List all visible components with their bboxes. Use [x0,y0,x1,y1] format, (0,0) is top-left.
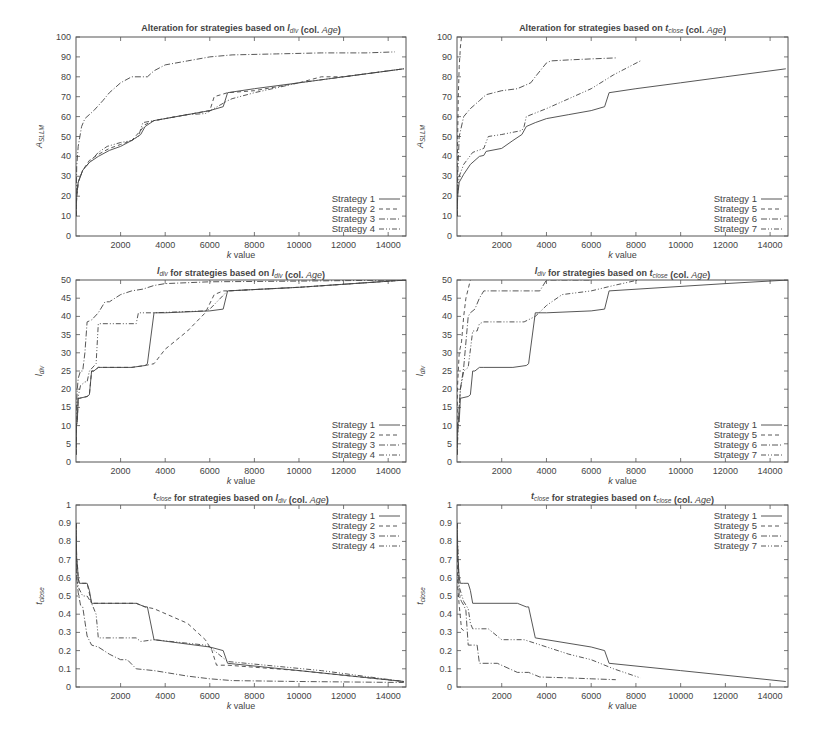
y-tick-label: 10 [61,421,71,431]
x-axis-label: k value [227,701,256,711]
chart-title: ldiv for strategies based on ldiv (col. … [157,266,325,280]
y-tick-label: 20 [442,384,452,394]
y-tick-label: 45 [442,293,452,303]
series-line-strategy-7 [457,523,640,678]
y-tick-label: 50 [61,132,71,142]
series-line-strategy-6 [457,280,591,455]
y-tick-label: 0 [66,457,71,467]
y-tick-label: 0 [66,682,71,692]
x-tick-label: 14000 [758,691,783,701]
x-tick-label: 4000 [155,240,175,250]
x-tick-label: 4000 [536,240,556,250]
y-tick-label: 0.8 [439,536,452,546]
x-tick-label: 6000 [200,466,220,476]
y-tick-label: 35 [442,330,452,340]
legend-label: Strategy 7 [714,540,757,551]
x-tick-label: 4000 [536,691,556,701]
y-tick-label: 100 [56,32,71,42]
y-tick-label: 0.3 [439,627,452,637]
y-tick-label: 0.9 [58,518,71,528]
y-tick-label: 5 [66,439,71,449]
y-tick-label: 20 [61,191,71,201]
figure-canvas: Alteration for strategies based on ldiv … [0,0,831,750]
figure: Alteration for strategies based on ldiv … [0,0,831,750]
y-tick-label: 0 [66,231,71,241]
x-tick-label: 2000 [492,466,512,476]
y-axis-label: ldiv [415,365,426,376]
y-axis-label: tclose [34,587,45,605]
y-tick-label: 1 [66,500,71,510]
x-tick-label: 6000 [200,691,220,701]
y-tick-label: 0.7 [58,555,71,565]
y-tick-label: 0.6 [58,573,71,583]
y-tick-label: 40 [442,311,452,321]
y-tick-label: 70 [442,92,452,102]
x-tick-label: 4000 [155,691,175,701]
y-tick-label: 35 [61,330,71,340]
x-tick-label: 8000 [244,240,264,250]
y-tick-label: 30 [61,348,71,358]
chart-title: tclose for strategies based on tclose (c… [531,491,714,505]
y-tick-label: 50 [61,275,71,285]
chart-title: ldiv for strategies based on tclose (col… [535,266,711,280]
series-line-strategy-6 [457,58,616,216]
x-tick-label: 4000 [536,466,556,476]
y-tick-label: 50 [442,132,452,142]
y-tick-label: 10 [442,421,452,431]
y-tick-label: 0.5 [439,591,452,601]
y-tick-label: 15 [442,402,452,412]
x-tick-label: 6000 [581,691,601,701]
x-tick-label: 4000 [155,466,175,476]
y-tick-label: 40 [61,311,71,321]
x-tick-label: 6000 [581,240,601,250]
x-tick-label: 10000 [668,240,693,250]
x-tick-label: 12000 [331,466,356,476]
y-tick-label: 20 [61,384,71,394]
x-axis-label: k value [608,476,637,486]
y-tick-label: 25 [442,366,452,376]
x-tick-label: 12000 [331,240,356,250]
y-tick-label: 30 [442,171,452,181]
x-tick-label: 2000 [111,240,131,250]
y-tick-label: 0.8 [58,536,71,546]
x-tick-label: 10000 [668,691,693,701]
legend-label: Strategy 4 [332,540,375,551]
y-axis-label: ASLLM [415,124,426,149]
chart-c2: Alteration for strategies based on tclos… [415,23,788,260]
chart-c1: Alteration for strategies based on ldiv … [34,23,406,260]
y-tick-label: 0.1 [439,664,452,674]
x-axis-label: k value [608,250,637,260]
y-tick-label: 0.4 [439,609,452,619]
x-tick-label: 14000 [376,691,401,701]
x-axis-label: k value [227,476,256,486]
chart-c3: ldiv for strategies based on ldiv (col. … [34,266,406,486]
legend-label: Strategy 7 [714,449,757,460]
series-line-strategy-5 [457,280,470,455]
y-tick-label: 0.1 [58,664,71,674]
y-tick-label: 0 [447,682,452,692]
y-tick-label: 10 [61,211,71,221]
x-tick-label: 10000 [668,466,693,476]
x-tick-label: 10000 [286,466,311,476]
x-tick-label: 2000 [492,240,512,250]
y-tick-label: 25 [61,366,71,376]
y-tick-label: 0.7 [439,555,452,565]
y-tick-label: 60 [442,112,452,122]
y-tick-label: 60 [61,112,71,122]
series-line-strategy-6 [457,523,616,680]
y-tick-label: 45 [61,293,71,303]
chart-title: Alteration for strategies based on tclos… [519,23,726,35]
y-tick-label: 0.5 [58,591,71,601]
chart-c5: tclose for strategies based on ldiv (col… [34,491,406,711]
legend-label: Strategy 7 [714,223,757,234]
x-tick-label: 2000 [111,466,131,476]
x-tick-label: 8000 [626,466,646,476]
y-tick-label: 70 [61,92,71,102]
x-tick-label: 14000 [758,466,783,476]
x-tick-label: 12000 [713,466,738,476]
y-tick-label: 0.2 [439,646,452,656]
legend: Strategy 1Strategy 2Strategy 3Strategy 4 [332,193,400,234]
x-tick-label: 8000 [244,466,264,476]
legend: Strategy 1Strategy 2Strategy 3Strategy 4 [332,510,400,551]
chart-title: Alteration for strategies based on ldiv … [141,23,340,35]
